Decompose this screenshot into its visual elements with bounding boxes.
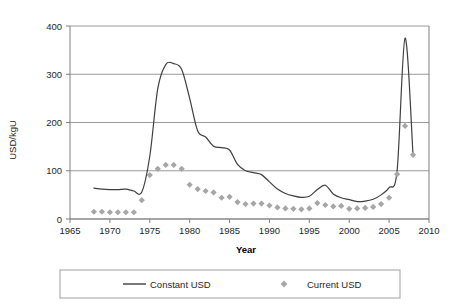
x-tick-label: 1985 bbox=[219, 225, 240, 236]
x-tick-label: 1965 bbox=[59, 225, 80, 236]
x-tick-label: 1975 bbox=[139, 225, 160, 236]
y-tick-label: 100 bbox=[46, 165, 62, 176]
y-tick-label: 300 bbox=[46, 69, 62, 80]
legend: Constant USD Current USD bbox=[60, 270, 400, 298]
price-line-chart: 1965197019751980198519901995200020052010… bbox=[0, 0, 460, 308]
x-tick-label: 1970 bbox=[99, 225, 120, 236]
y-tick-label: 200 bbox=[46, 117, 62, 128]
chart-container: 1965197019751980198519901995200020052010… bbox=[0, 0, 460, 308]
y-axis-title: USD/kgU bbox=[7, 120, 18, 160]
x-tick-label: 2005 bbox=[379, 225, 400, 236]
x-tick-label: 2000 bbox=[339, 225, 360, 236]
legend-label-constant-usd: Constant USD bbox=[150, 279, 211, 290]
x-tick-label: 1995 bbox=[299, 225, 320, 236]
y-tick-label: 0 bbox=[57, 214, 62, 225]
legend-label-current-usd: Current USD bbox=[307, 279, 362, 290]
x-axis-title: Year bbox=[236, 244, 256, 255]
x-tick-label: 1990 bbox=[259, 225, 280, 236]
chart-background bbox=[0, 0, 460, 308]
x-tick-label: 2010 bbox=[418, 225, 439, 236]
y-tick-label: 400 bbox=[46, 21, 62, 32]
x-tick-label: 1980 bbox=[179, 225, 200, 236]
